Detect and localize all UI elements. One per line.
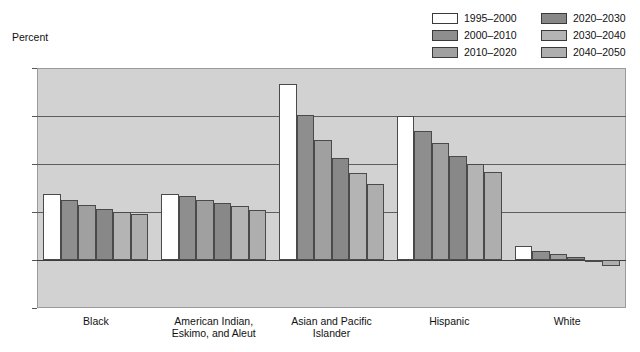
bar	[484, 172, 502, 260]
bar	[414, 131, 432, 260]
y-axis-tick-mark	[32, 308, 37, 309]
bar	[367, 184, 385, 260]
legend-label: 2040–2050	[573, 47, 626, 58]
legend-label: 2000–2010	[464, 30, 517, 41]
bar	[585, 260, 603, 262]
bar	[196, 200, 214, 260]
bar	[467, 164, 485, 260]
bar	[332, 158, 350, 260]
legend-swatch-icon	[541, 47, 567, 58]
bar	[113, 212, 131, 260]
y-axis-title: Percent	[12, 31, 48, 43]
bar-group	[515, 68, 620, 308]
bar	[550, 254, 568, 260]
bar	[249, 210, 267, 260]
bar	[78, 205, 96, 260]
bar	[515, 246, 533, 260]
bar-group	[43, 68, 148, 308]
x-axis-category-label: White	[554, 315, 581, 327]
bar	[297, 115, 315, 260]
bar	[567, 257, 585, 260]
x-axis-category-label: Hispanic	[429, 315, 469, 327]
legend-item: 2010–2020	[432, 46, 523, 59]
bar	[214, 203, 232, 260]
legend-item: 2040–2050	[541, 46, 632, 59]
legend-swatch-icon	[432, 13, 458, 24]
y-axis-tick-mark	[32, 260, 37, 261]
chart-legend: 1995–2000 2000–2010 2010–2020 2020–2030 …	[432, 12, 632, 59]
bar-group	[279, 68, 384, 308]
legend-item: 1995–2000	[432, 12, 523, 25]
x-axis-category-label: Asian and Pacific Islander	[291, 315, 372, 339]
bar	[349, 173, 367, 260]
bar	[532, 251, 550, 260]
bar	[161, 194, 179, 260]
y-axis-tick-mark	[32, 164, 37, 165]
legend-column-left: 1995–2000 2000–2010 2010–2020	[432, 12, 523, 59]
bar	[602, 260, 620, 266]
bar	[61, 200, 79, 260]
bar	[314, 140, 332, 260]
bar	[43, 194, 61, 260]
x-axis-labels: BlackAmerican Indian, Eskimo, and AleutA…	[37, 315, 626, 351]
x-axis-category-label: American Indian, Eskimo, and Aleut	[172, 315, 256, 339]
plot-area	[37, 68, 626, 308]
bar	[279, 84, 297, 260]
bar	[432, 143, 450, 260]
legend-item: 2030–2040	[541, 29, 632, 42]
y-axis-tick-mark	[32, 116, 37, 117]
legend-swatch-icon	[541, 30, 567, 41]
bar-group	[161, 68, 266, 308]
bar	[449, 156, 467, 260]
legend-label: 1995–2000	[464, 13, 517, 24]
bar	[397, 116, 415, 260]
legend-label: 2020–2030	[573, 13, 626, 24]
bar	[96, 209, 114, 260]
y-axis-tick-mark	[32, 212, 37, 213]
bar	[131, 214, 149, 260]
legend-label: 2030–2040	[573, 30, 626, 41]
y-axis-tick-mark	[32, 68, 37, 69]
bar-groups	[37, 68, 626, 308]
bar	[231, 206, 249, 260]
bar-group	[397, 68, 502, 308]
legend-item: 2020–2030	[541, 12, 632, 25]
legend-label: 2010–2020	[464, 47, 517, 58]
legend-column-right: 2020–2030 2030–2040 2040–2050	[541, 12, 632, 59]
legend-swatch-icon	[432, 47, 458, 58]
legend-swatch-icon	[541, 13, 567, 24]
x-axis-category-label: Black	[83, 315, 109, 327]
legend-swatch-icon	[432, 30, 458, 41]
bar	[179, 196, 197, 260]
legend-item: 2000–2010	[432, 29, 523, 42]
